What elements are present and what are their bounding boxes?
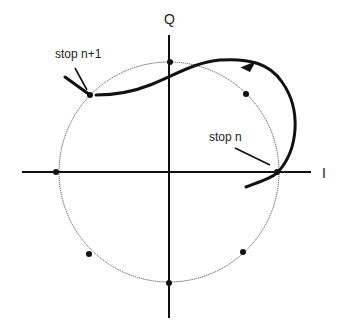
point-90deg [167,59,173,65]
stop-n-label: stop n [209,131,242,143]
point-315deg [240,249,246,255]
transition-trajectory [96,60,295,187]
point-180deg [53,169,59,175]
stop-n-leader [235,148,270,165]
point-45deg [243,91,249,97]
point-225deg [86,251,92,257]
iq-diagram [0,0,346,332]
stop-n-plus-1-label: stop n+1 [55,48,101,60]
point-270deg [166,280,172,286]
q-axis-label: Q [164,12,175,26]
trajectory-tail [65,77,90,95]
i-axis-label: I [322,166,326,180]
